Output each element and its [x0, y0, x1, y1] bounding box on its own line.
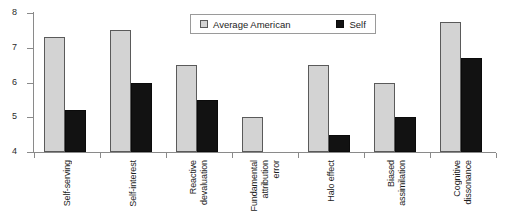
x-axis-label: Self-interest	[100, 160, 166, 222]
x-axis-label-line: Cognitive	[452, 160, 463, 197]
x-axis-label: Reactivedevaluation	[166, 160, 232, 222]
y-axis-tick	[27, 83, 34, 84]
x-axis-tick	[496, 153, 497, 158]
x-axis-label-line: Halo effect	[326, 160, 337, 202]
bar-self	[65, 110, 86, 152]
x-axis-label-line: Fundamental	[249, 160, 260, 211]
x-axis-tick	[166, 153, 167, 158]
bar-self	[197, 100, 218, 152]
x-axis-line	[33, 152, 496, 153]
bar-average-american	[176, 65, 197, 152]
x-axis-label: Fundamentalattributionerror	[232, 160, 298, 222]
x-axis-tick	[100, 153, 101, 158]
bar-self	[395, 117, 416, 152]
y-axis-tick-label: 5	[12, 110, 17, 123]
legend-label-average-american: Average American	[213, 19, 290, 30]
x-axis-label: Cognitivedissonance	[430, 160, 496, 222]
bar-average-american	[44, 37, 65, 152]
x-axis-label-line: Biased	[386, 160, 397, 187]
bar-self	[461, 58, 482, 152]
bar-self	[131, 83, 152, 153]
y-axis-tick	[27, 13, 34, 14]
legend-entry-average-american: Average American	[200, 19, 290, 30]
bar-average-american	[440, 22, 461, 152]
legend-entry-self: Self	[336, 19, 365, 30]
x-axis-label-line: dissonance	[463, 160, 474, 205]
x-axis-label-line: attribution	[260, 160, 271, 198]
legend-swatch-icon-average-american	[200, 20, 208, 28]
x-axis-label: Biasedassimilation	[364, 160, 430, 222]
x-axis-label-line: Reactive	[188, 160, 199, 194]
x-axis-label: Self-serving	[34, 160, 100, 222]
bar-average-american	[374, 83, 395, 153]
y-axis-tick-label: 8	[12, 6, 17, 19]
legend-swatch-icon-self	[336, 20, 344, 28]
bar-self	[329, 135, 350, 152]
x-axis-tick	[430, 153, 431, 158]
x-axis-tick	[298, 153, 299, 158]
y-axis-tick	[27, 117, 34, 118]
y-axis-tick	[27, 48, 34, 49]
y-axis-tick-label: 7	[12, 41, 17, 54]
y-axis-tick-label: 6	[12, 76, 17, 89]
bar-average-american	[110, 30, 131, 152]
bar-average-american	[242, 117, 263, 152]
x-axis-label-line: error	[271, 160, 282, 179]
legend: Average American Self	[190, 14, 376, 34]
x-axis-tick	[34, 153, 35, 158]
x-axis-label-line: Self-serving	[62, 160, 73, 206]
x-axis-label-line: assimilation	[397, 160, 408, 206]
y-axis-tick-label: 4	[12, 145, 17, 158]
x-axis-tick	[232, 153, 233, 158]
x-axis-tick	[364, 153, 365, 158]
y-axis-tick	[27, 152, 34, 153]
x-axis-label-line: devaluation	[199, 160, 210, 205]
bar-chart: 87654 Self-servingSelf-interestReactived…	[0, 0, 506, 223]
bar-average-american	[308, 65, 329, 152]
x-axis-label-line: Self-interest	[128, 160, 139, 207]
legend-label-self: Self	[349, 19, 365, 30]
x-axis-label: Halo effect	[298, 160, 364, 222]
